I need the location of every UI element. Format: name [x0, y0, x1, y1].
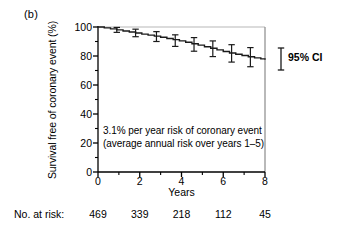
y-tick-label: 40 [66, 108, 92, 120]
y-tick-label: 60 [66, 79, 92, 91]
annotation-line-1: 3.1% per year risk of coronary event [103, 124, 264, 137]
ci-legend-symbol [278, 48, 284, 70]
numbers-at-risk-value: 339 [131, 208, 149, 220]
risk-annotation: 3.1% per year risk of coronary event (av… [103, 124, 264, 150]
numbers-at-risk-value: 469 [89, 208, 107, 220]
annotation-line-2: (average annual risk over years 1–5) [103, 137, 264, 150]
figure-panel-b: (b) Survival free of coronary event (%) … [0, 0, 346, 240]
axes-group [98, 26, 265, 172]
error-bar [191, 38, 197, 52]
y-tick-label: 80 [66, 50, 92, 62]
error-bars-group [114, 27, 254, 66]
numbers-at-risk-value: 45 [259, 208, 271, 220]
ticks-group [93, 27, 265, 177]
numbers-at-risk-title: No. at risk: [14, 208, 64, 220]
survival-curve-group [98, 27, 265, 60]
y-tick-label: 0 [66, 166, 92, 178]
numbers-at-risk-value: 112 [215, 208, 232, 220]
y-tick-label: 20 [66, 137, 92, 149]
x-axis-label: Years [98, 186, 265, 198]
y-tick-label: 100 [66, 21, 92, 33]
numbers-at-risk-value: 218 [173, 208, 191, 220]
plot-canvas [0, 0, 346, 240]
numbers-at-risk-row: No. at risk: 46933921811245 [0, 208, 346, 228]
survival-curve [98, 27, 265, 60]
error-bar [172, 35, 178, 47]
ci-legend-label: 95% CI [288, 51, 322, 63]
